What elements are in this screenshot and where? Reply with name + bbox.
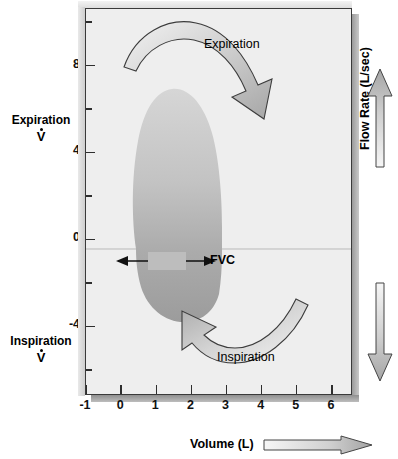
inspiration-arrow-label: Inspiration	[217, 350, 275, 364]
flow-volume-loop-graphic	[86, 9, 352, 395]
y-axis-tick-minor	[86, 108, 92, 109]
expiration-direction-arrow-icon	[367, 68, 393, 168]
y-axis-tick-minor	[86, 282, 92, 283]
x-axis-tick-major	[120, 385, 121, 394]
v-letter-inspiration: V	[37, 350, 46, 365]
y-axis-tick-label: 0	[54, 230, 80, 244]
y-axis-tick-major	[86, 65, 95, 66]
inspiration-axis-label-text: Inspiration	[10, 334, 71, 348]
inspiration-axis-label: Inspiration V	[0, 334, 82, 366]
x-axis-tick-major	[296, 385, 297, 394]
x-axis-tick-label: -1	[70, 398, 100, 412]
volume-direction-arrow-icon	[263, 436, 373, 454]
x-axis-tick-major	[226, 385, 227, 394]
x-axis-tick-major	[261, 385, 262, 394]
plot-frame: FVC Expiration Inspiration	[85, 8, 352, 395]
plot-area: FVC Expiration Inspiration	[85, 8, 352, 395]
y-axis-tick-minor	[86, 195, 92, 196]
x-axis-tick-major	[331, 385, 332, 394]
expiration-arrow-label: Expiration	[204, 37, 260, 51]
v-letter-expiration: V	[37, 129, 46, 144]
x-axis-tick-label: 5	[281, 398, 311, 412]
y-axis-tick-minor	[86, 369, 92, 370]
flow-volume-loop-shape	[133, 89, 222, 322]
x-axis-tick-labels: -10123456	[85, 398, 352, 418]
y-axis-tick-label: -4	[54, 317, 80, 331]
x-axis-title: Volume (L)	[190, 437, 254, 451]
y-axis-tick-major	[86, 239, 95, 240]
x-axis-title-group: Volume (L)	[190, 436, 373, 454]
y-axis-tick-label: 4	[54, 143, 80, 157]
x-axis-tick-label: 3	[211, 398, 241, 412]
x-axis-tick-major	[191, 385, 192, 394]
x-axis-tick-major	[156, 385, 157, 394]
fvc-label: FVC	[210, 253, 235, 267]
y-axis-tick-minor	[86, 21, 92, 22]
y-axis-tick-major	[86, 326, 95, 327]
y-axis-tick-label: 8	[54, 57, 80, 71]
x-axis-tick-label: 2	[175, 398, 205, 412]
x-axis-tick-label: 6	[316, 398, 346, 412]
v-dot-symbol-expiration: V	[0, 128, 82, 145]
x-axis-tick-label: 4	[246, 398, 276, 412]
plot-bevel-left	[78, 7, 85, 396]
inspiration-direction-arrow-icon	[367, 282, 393, 382]
x-axis-tick-label: 0	[105, 398, 135, 412]
x-axis-tick-major	[85, 385, 86, 394]
expiration-axis-label-text: Expiration	[12, 113, 71, 127]
v-dot-symbol-inspiration: V	[0, 349, 82, 366]
y-axis-tick-major	[86, 152, 95, 153]
plot-bevel-top	[78, 1, 352, 8]
x-axis-tick-label: 1	[140, 398, 170, 412]
expiration-axis-label: Expiration V	[0, 113, 82, 145]
